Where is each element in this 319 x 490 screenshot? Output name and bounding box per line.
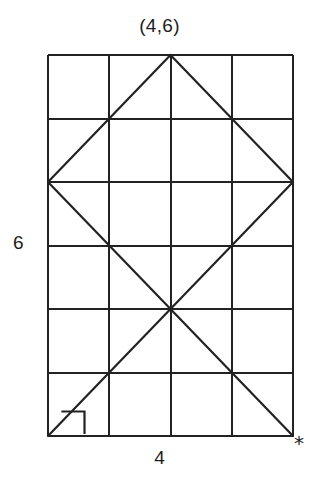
y-axis-label: 6: [13, 233, 24, 252]
coordinate-title-label: (4,6): [0, 16, 319, 35]
x-axis-label: 4: [0, 448, 319, 467]
grid-diagram-svg: [0, 0, 319, 490]
arrowhead-marker-icon: [63, 412, 85, 434]
figure-container: (4,6) 6 4 *: [0, 0, 319, 490]
grid-lines: [48, 55, 293, 436]
asterisk-corner-marker: *: [294, 433, 304, 453]
